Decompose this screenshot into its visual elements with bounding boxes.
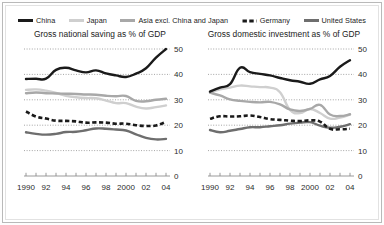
y-axis-tick-label: 30	[174, 96, 183, 105]
plot-svg-left: 0102030405019909294969820000204	[8, 43, 192, 217]
legend-item[interactable]: United States	[304, 16, 366, 25]
legend-item-label: Japan	[87, 16, 107, 25]
legend-item[interactable]: Germany	[242, 16, 290, 25]
panel-title-right: Gross domestic investment as % of GDP	[192, 29, 376, 39]
x-axis-tick-label: 94	[62, 183, 71, 192]
x-axis-tick-label: 92	[42, 183, 51, 192]
x-axis-tick-label: 2000	[301, 183, 319, 192]
legend-item-label: China	[36, 16, 55, 25]
y-axis-tick-label: 10	[358, 147, 367, 156]
legend-item-label: Asia excl. China and Japan	[138, 16, 228, 25]
dashed-line-swatch-icon	[242, 19, 257, 22]
panel-gross-national-saving: Gross national saving as % of GDP 010203…	[8, 29, 192, 217]
x-axis-tick-label: 2000	[117, 183, 135, 192]
x-axis-tick-label: 96	[266, 183, 275, 192]
panel-gross-domestic-investment: Gross domestic investment as % of GDP 01…	[192, 29, 376, 217]
y-axis-tick-label: 30	[358, 96, 367, 105]
y-axis-tick-label: 0	[358, 172, 363, 181]
x-axis-tick-label: 94	[246, 183, 255, 192]
x-axis-tick-label: 04	[346, 183, 355, 192]
legend-item[interactable]: Asia excl. China and Japan	[120, 16, 228, 25]
y-axis-tick-label: 50	[358, 45, 367, 54]
plot-svg-right: 0102030405019909294969820000204	[192, 43, 376, 217]
chart-legend: ChinaJapanAsia excl. China and JapanGerm…	[14, 14, 370, 27]
legend-item[interactable]: China	[18, 16, 55, 25]
legend-item-label: United States	[322, 16, 366, 25]
series-line	[210, 93, 350, 117]
x-axis-tick-label: 96	[82, 183, 91, 192]
y-axis-tick-label: 0	[174, 172, 179, 181]
y-axis-tick-label: 40	[358, 70, 367, 79]
x-axis-tick-label: 98	[102, 183, 111, 192]
panel-title-left: Gross national saving as % of GDP	[8, 29, 192, 39]
line-swatch-icon	[18, 19, 33, 22]
y-axis-tick-label: 40	[174, 70, 183, 79]
line-swatch-icon	[69, 19, 84, 22]
y-axis-tick-label: 20	[174, 121, 183, 130]
series-line	[210, 122, 350, 132]
y-axis-tick-label: 50	[174, 45, 183, 54]
x-axis-tick-label: 02	[326, 183, 335, 192]
line-swatch-icon	[120, 19, 135, 22]
line-swatch-icon	[304, 19, 319, 22]
x-axis-tick-label: 1990	[201, 183, 219, 192]
plot-area-right: 0102030405019909294969820000204	[192, 43, 376, 217]
x-axis-tick-label: 98	[286, 183, 295, 192]
x-axis-tick-label: 1990	[17, 183, 35, 192]
legend-item-label: Germany	[260, 16, 290, 25]
x-axis-tick-label: 04	[162, 183, 171, 192]
chart-panels: Gross national saving as % of GDP 010203…	[8, 29, 376, 217]
series-line	[26, 49, 166, 80]
series-line	[26, 128, 166, 139]
figure-root: ChinaJapanAsia excl. China and JapanGerm…	[0, 0, 384, 225]
plot-area-left: 0102030405019909294969820000204	[8, 43, 192, 217]
series-line	[26, 111, 166, 126]
x-axis-tick-label: 02	[142, 183, 151, 192]
x-axis-tick-label: 92	[226, 183, 235, 192]
y-axis-tick-label: 10	[174, 147, 183, 156]
series-line	[26, 92, 166, 101]
y-axis-tick-label: 20	[358, 121, 367, 130]
legend-item[interactable]: Japan	[69, 16, 107, 25]
